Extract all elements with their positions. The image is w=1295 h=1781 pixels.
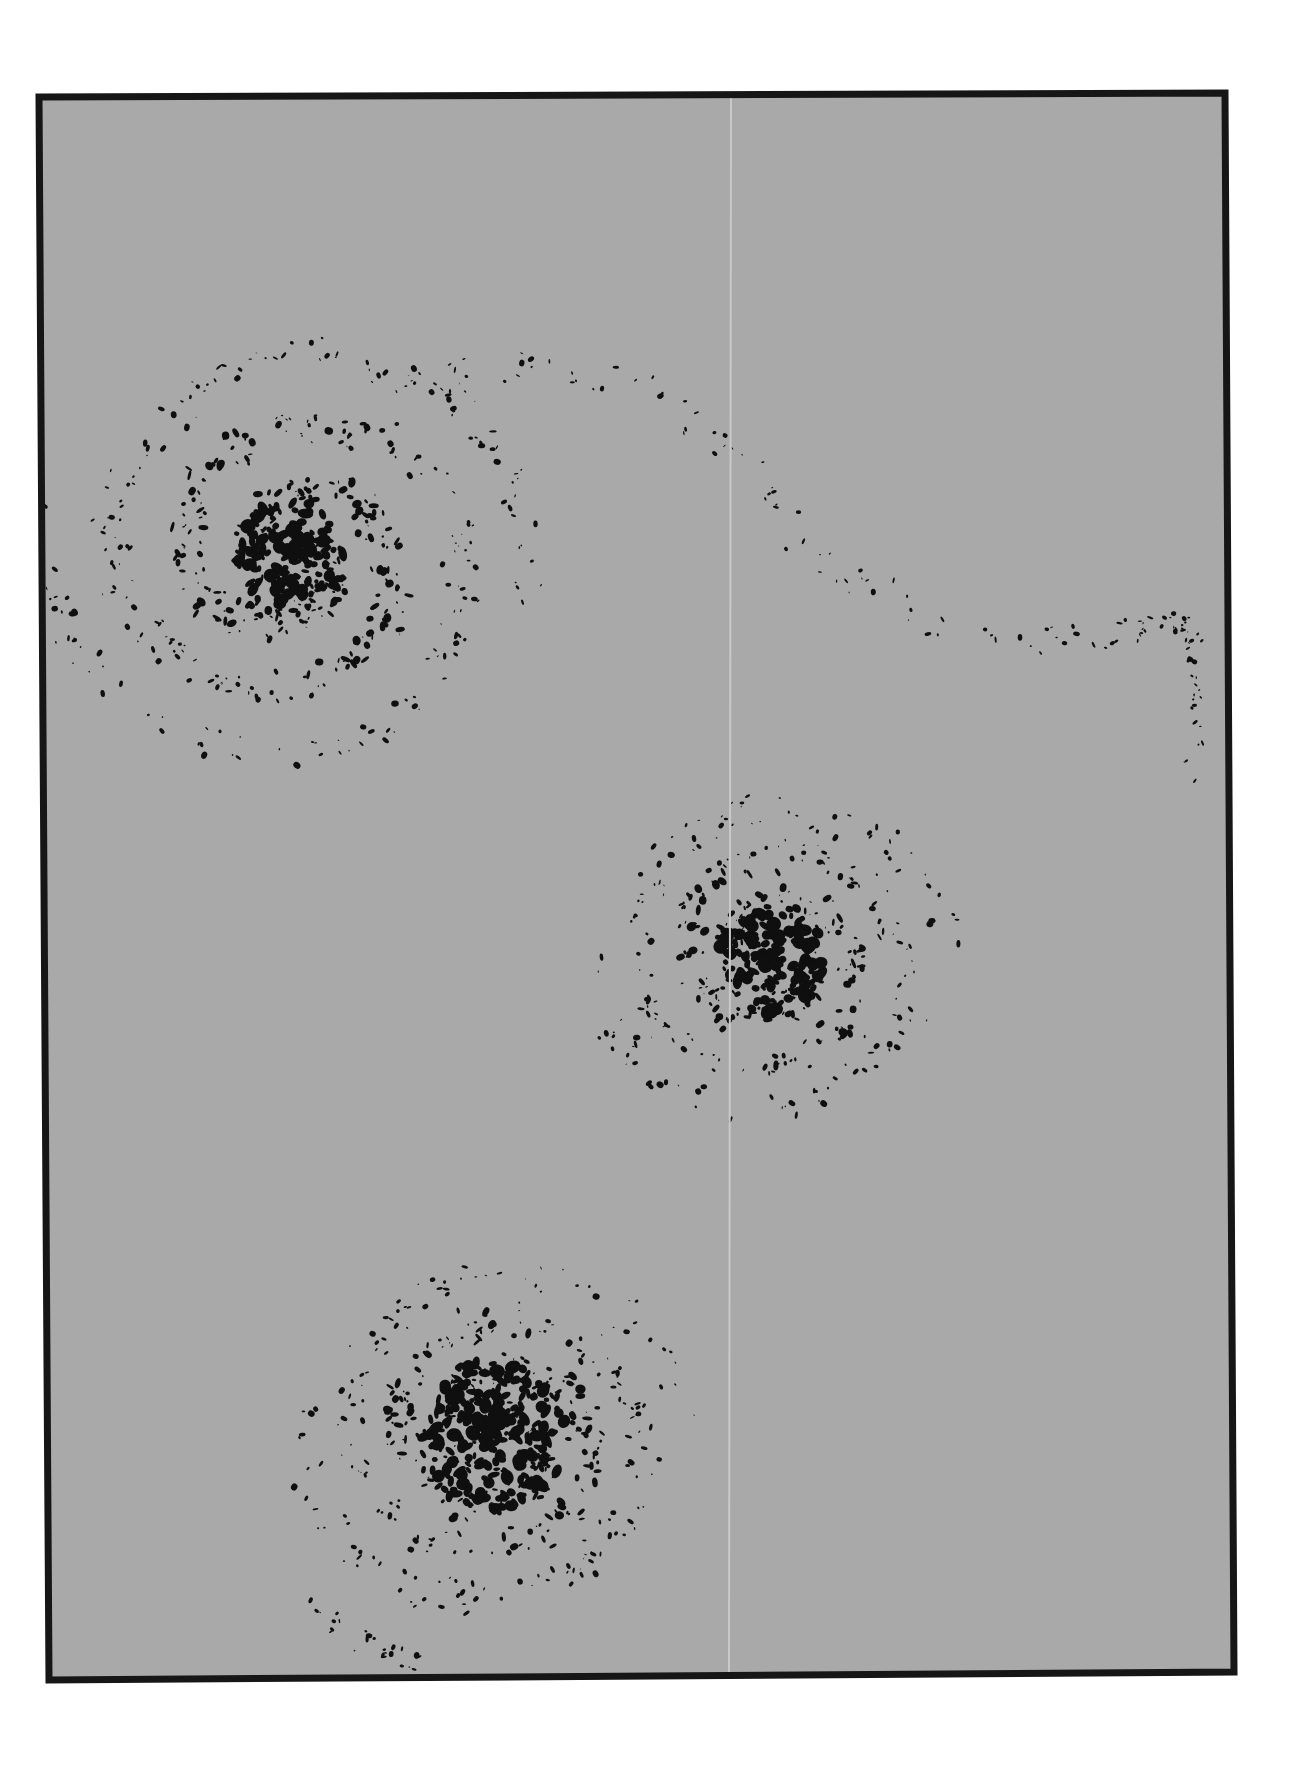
abstract-print: [0, 0, 1295, 1781]
gray-panel: [39, 93, 1234, 1680]
